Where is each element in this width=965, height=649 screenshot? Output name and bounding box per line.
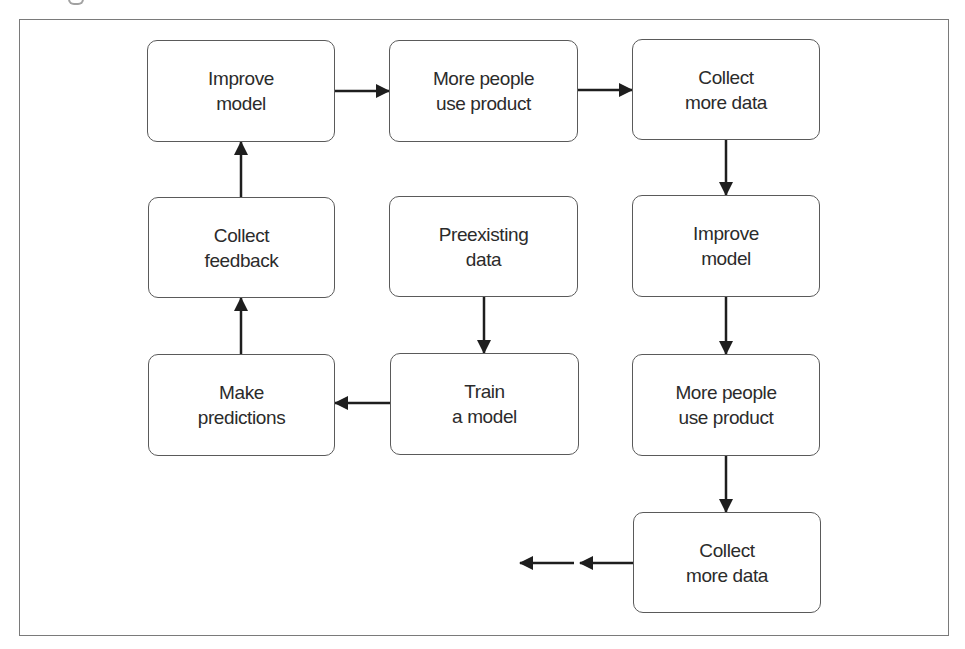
node-label-line: feedback <box>205 248 279 273</box>
node-label-line: use product <box>436 91 531 116</box>
node-label-line: Preexisting <box>439 222 529 247</box>
node-label-line: model <box>216 91 266 116</box>
node-collect-feedback: Collect feedback <box>148 197 335 298</box>
node-label-line: model <box>701 246 751 271</box>
node-improve-model-right: Improve model <box>632 195 820 297</box>
node-more-people-top: More people use product <box>389 40 578 142</box>
node-label-line: Collect <box>698 65 753 90</box>
node-label-line: predictions <box>198 405 285 430</box>
node-label-line: Collect <box>214 223 269 248</box>
node-label-line: more data <box>686 563 768 588</box>
node-collect-more-data-bottom: Collect more data <box>633 512 821 613</box>
node-label-line: More people <box>433 66 534 91</box>
node-label-line: More people <box>675 380 776 405</box>
cropped-caption-fragment <box>68 0 84 5</box>
node-label-line: Collect <box>699 538 754 563</box>
node-preexisting-data: Preexisting data <box>389 196 578 297</box>
node-label-line: Improve <box>208 66 274 91</box>
node-label-line: data <box>466 247 501 272</box>
node-label-line: more data <box>685 90 767 115</box>
node-train-model: Train a model <box>390 353 579 455</box>
node-label-line: Make <box>219 380 264 405</box>
node-label-line: Train <box>464 379 505 404</box>
node-more-people-right: More people use product <box>632 354 820 456</box>
node-label-line: a model <box>452 404 517 429</box>
node-collect-more-data-top: Collect more data <box>632 39 820 140</box>
node-improve-model-top: Improve model <box>147 40 335 142</box>
node-label-line: Improve <box>693 221 759 246</box>
node-make-predictions: Make predictions <box>148 354 335 456</box>
node-label-line: use product <box>679 405 774 430</box>
